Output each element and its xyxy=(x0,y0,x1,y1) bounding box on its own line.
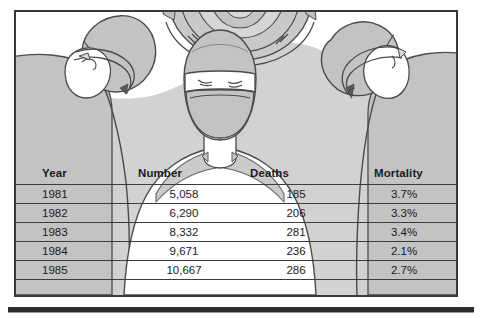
cell-number: 10,667 xyxy=(124,261,244,280)
column-header-year: Year xyxy=(16,162,124,185)
table-row: 1981 5,058 185 3.7% xyxy=(16,185,458,204)
outcomes-table: Year Number Deaths Mortality 1981 5,058 … xyxy=(16,162,458,294)
cell-year: 1985 xyxy=(16,261,124,280)
surgical-outcomes-table: Year Number Deaths Mortality 1981 5,058 … xyxy=(16,162,456,295)
table-bottom-rule xyxy=(124,280,244,295)
page-root: Year Number Deaths Mortality 1981 5,058 … xyxy=(0,0,481,318)
cell-mortality: 2.7% xyxy=(348,261,458,280)
table-row: 1985 10,667 286 2.7% xyxy=(16,261,458,280)
table-bottom-rule-row xyxy=(16,280,458,295)
bottom-divider-rule xyxy=(8,307,474,313)
cell-mortality: 3.4% xyxy=(348,223,458,242)
illustration-frame: Year Number Deaths Mortality 1981 5,058 … xyxy=(14,10,458,297)
cell-mortality: 2.1% xyxy=(348,242,458,261)
cell-number: 5,058 xyxy=(124,185,244,204)
cell-deaths: 281 xyxy=(244,223,348,242)
column-header-mortality: Mortality xyxy=(348,162,458,185)
cell-deaths: 236 xyxy=(244,242,348,261)
table-row: 1983 8,332 281 3.4% xyxy=(16,223,458,242)
cell-number: 8,332 xyxy=(124,223,244,242)
cell-year: 1983 xyxy=(16,223,124,242)
table-row: 1984 9,671 236 2.1% xyxy=(16,242,458,261)
cell-deaths: 286 xyxy=(244,261,348,280)
cell-number: 6,290 xyxy=(124,204,244,223)
table-row: 1982 6,290 206 3.3% xyxy=(16,204,458,223)
table-bottom-rule xyxy=(16,280,124,295)
table-bottom-rule xyxy=(244,280,348,295)
cell-year: 1984 xyxy=(16,242,124,261)
cell-year: 1981 xyxy=(16,185,124,204)
center-surgeon-eye-band xyxy=(185,71,255,92)
cell-year: 1982 xyxy=(16,204,124,223)
cell-mortality: 3.7% xyxy=(348,185,458,204)
column-header-deaths: Deaths xyxy=(244,162,348,185)
column-header-number: Number xyxy=(124,162,244,185)
cell-mortality: 3.3% xyxy=(348,204,458,223)
cell-number: 9,671 xyxy=(124,242,244,261)
table-header-row: Year Number Deaths Mortality xyxy=(16,162,458,185)
cell-deaths: 185 xyxy=(244,185,348,204)
cell-deaths: 206 xyxy=(244,204,348,223)
table-bottom-rule xyxy=(348,280,458,295)
